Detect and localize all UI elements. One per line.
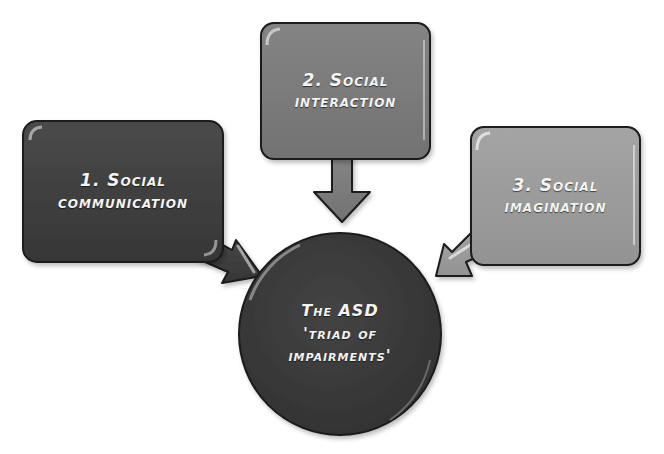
center-line3: impairments' [288,345,391,367]
box-1-label: 1. Social communication [23,121,223,262]
box-2-label: 2. Social interaction [261,23,430,159]
box-1-line1: 1. Social [58,170,188,191]
arrow-from-box-2 [314,158,370,222]
center-label: The ASD 'triad of impairments' [240,234,440,434]
box-3-line2: imagination [504,196,606,217]
box-3-label: 3. Social imagination [471,127,640,265]
center-line2: 'triad of [288,323,391,345]
box-1-line2: communication [58,192,188,213]
box-3-line1: 3. Social [504,175,606,196]
box-2-line1: 2. Social [295,70,397,91]
box-2-line2: interaction [295,91,397,112]
center-line1: The ASD [288,300,391,322]
